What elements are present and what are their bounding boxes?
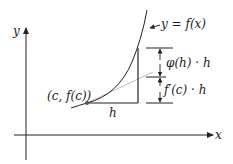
curve-label-pointer [150, 25, 160, 28]
phi-label: φ(h) · h [166, 56, 211, 70]
h-label: h [109, 106, 117, 120]
tangent-line [87, 72, 153, 103]
y-axis-label: y [12, 24, 20, 38]
point-label: (c, f(c)) [47, 89, 92, 103]
fprime-label: f′(c) · h [163, 83, 206, 97]
x-axis-label: x [215, 128, 222, 142]
curve-label: y = f(x) [160, 17, 206, 31]
derivative-diagram: y x y = f(x) φ(h) · h f′(c) · h (c [0, 0, 233, 164]
